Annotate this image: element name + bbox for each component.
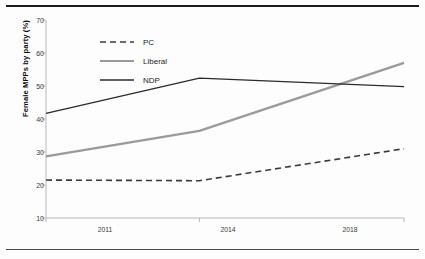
plot-area: PCLiberalNDP [0,12,425,247]
legend-label-ndp: NDP [143,76,160,85]
axis-spine [46,20,404,218]
figure-container: Female MPPs by party (%) 70 60 50 40 30 … [0,0,425,259]
bottom-horizontal-rule [6,249,419,250]
y-tick-label: 10 [26,215,44,222]
legend-label-liberal: Liberal [143,57,167,66]
y-tick-label: 50 [26,83,44,90]
y-tick-label: 30 [26,149,44,156]
x-tick-label: 2014 [220,226,235,233]
x-tick-label: 2011 [98,226,113,233]
x-tick-label: 2018 [342,226,357,233]
series-line-liberal [46,63,404,156]
y-tick-label: 60 [26,50,44,57]
y-tick-label: 70 [26,17,44,24]
y-axis-tick-labels: 70 60 50 40 30 20 10 [24,12,44,247]
series-line-pc [46,149,404,181]
top-horizontal-rule [6,5,419,7]
series-line-ndp [46,78,404,113]
y-tick-label: 40 [26,116,44,123]
y-tick-label: 20 [26,182,44,189]
line-chart: Female MPPs by party (%) 70 60 50 40 30 … [0,12,425,247]
legend-label-pc: PC [143,38,154,47]
